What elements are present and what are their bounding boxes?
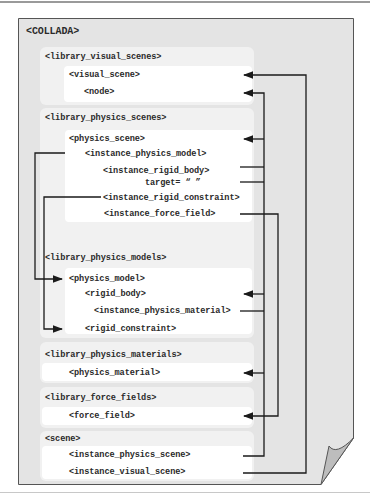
physics-material-label: <physics_material> xyxy=(69,368,160,378)
node-label: <node> xyxy=(84,87,114,97)
force-field-label: <force_field> xyxy=(69,411,135,421)
rigid-body-label: <rigid_body> xyxy=(85,289,146,299)
library-visual-scenes-label: <library_visual_scenes> xyxy=(45,52,161,62)
visual-scene-label: <visual_scene> xyxy=(69,70,140,80)
library-force-fields-label: <library_force_fields> xyxy=(45,393,156,403)
physics-model-label: <physics_model> xyxy=(69,274,145,284)
physics-scene-label: <physics_scene> xyxy=(69,134,145,144)
instance-rigid-constraint-label: <instance_rigid_constraint> xyxy=(103,193,240,203)
library-physics-scenes-label: <library_physics_scenes> xyxy=(45,113,166,123)
bottom-rule xyxy=(0,492,370,493)
rigid-constraint-label: <rigid_constraint> xyxy=(85,324,176,334)
instance-force-field-label: <instance_force_field> xyxy=(104,209,215,219)
instance-physics-model-label: <instance_physics_model> xyxy=(85,149,206,159)
library-physics-models-label: <library_physics_models> xyxy=(45,253,166,263)
instance-rigid-body-label: <instance_rigid_body> xyxy=(103,166,209,176)
library-physics-materials-label: <library_physics_materials> xyxy=(45,350,182,360)
instance-physics-material-label: <instance_physics_material> xyxy=(94,306,231,316)
instance-visual-scene-label: <instance_visual_scene> xyxy=(69,467,185,477)
collada-root-label: <COLLADA> xyxy=(26,27,79,37)
target-attribute-label: target= “ ” xyxy=(145,178,201,188)
instance-physics-scene-label: <instance_physics_scene> xyxy=(69,450,190,460)
scene-label: <scene> xyxy=(45,434,80,444)
top-rule xyxy=(0,1,370,3)
collada-document: <COLLADA> <library_visual_scenes> <visua… xyxy=(18,18,354,485)
